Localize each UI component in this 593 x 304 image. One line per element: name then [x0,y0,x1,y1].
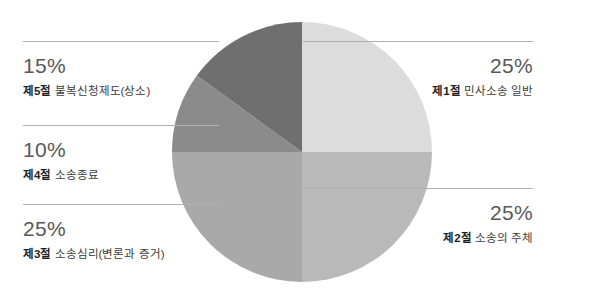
legend-item-slice-1[interactable]: 25% 제1절 민사소송 일반 [303,41,533,99]
legend-percent: 25% [23,218,219,239]
legend-item-slice-4[interactable]: 10% 제4절 소송종료 [23,125,219,183]
legend-percent: 10% [23,139,219,160]
legend-name: 소송심리(변론과 증거) [55,248,165,260]
legend-divider [23,125,219,126]
legend-percent: 15% [23,55,219,76]
legend-caption: 제3절 소송심리(변론과 증거) [23,248,219,262]
legend-percent: 25% [303,55,533,76]
legend-section: 제5절 [23,85,51,97]
legend-percent: 25% [303,202,533,223]
legend-divider [23,41,219,42]
legend-divider [23,204,219,205]
legend-name: 민사소송 일반 [464,85,533,97]
legend-caption: 제4절 소송종료 [23,169,219,183]
legend-section: 제3절 [23,248,51,260]
legend-name: 소송종료 [55,169,99,181]
legend-section: 제1절 [432,85,460,97]
legend-caption: 제5절 불복신청제도(상소) [23,85,219,99]
legend-section: 제2절 [443,232,471,244]
legend-caption: 제2절 소송의 주체 [303,232,533,246]
legend-divider [303,41,533,42]
legend-section: 제4절 [23,169,51,181]
legend-item-slice-2[interactable]: 25% 제2절 소송의 주체 [303,188,533,246]
legend-item-slice-5[interactable]: 15% 제5절 불복신청제도(상소) [23,41,219,99]
legend-divider [303,188,533,189]
legend-name: 소송의 주체 [475,232,533,244]
legend-item-slice-3[interactable]: 25% 제3절 소송심리(변론과 증거) [23,204,219,262]
legend-caption: 제1절 민사소송 일반 [303,85,533,99]
legend-name: 불복신청제도(상소) [55,85,151,97]
pie-chart: 15% 제5절 불복신청제도(상소) 10% 제4절 소송종료 25% 제3절 … [0,0,593,304]
